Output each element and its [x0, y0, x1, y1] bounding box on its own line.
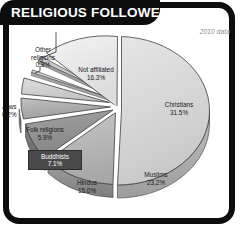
infographic-frame: Other religions 0.8% Jews 0.2% Not affil…	[0, 0, 244, 230]
label-jews-name: Jews	[2, 103, 28, 111]
label-christians: Christians 31.5%	[152, 101, 206, 116]
label-not-affiliated: Not affiliated 16.3%	[66, 66, 126, 81]
label-hindus-name: Hindus	[62, 179, 112, 187]
label-not-affiliated-pct: 16.3%	[66, 74, 126, 82]
label-buddhists-name: Buddhists	[33, 153, 77, 161]
label-buddhists-pct: 7.1%	[33, 160, 77, 168]
page-title: RELIGIOUS FOLLOWERS	[0, 5, 179, 20]
label-jews-pct: 0.2%	[2, 111, 28, 119]
label-muslims: Muslims 23.2%	[130, 171, 182, 186]
label-hindus-pct: 15.0%	[62, 187, 112, 195]
label-folk-religions-name: Folk religions	[16, 126, 74, 134]
label-buddhists: Buddhists 7.1%	[28, 150, 82, 170]
label-folk-religions-pct: 5.9%	[16, 134, 74, 142]
label-folk-religions: Folk religions 5.9%	[16, 126, 74, 141]
label-not-affiliated-name: Not affiliated	[66, 66, 126, 74]
label-other-religions-pct: 0.8%	[20, 61, 66, 69]
label-muslims-pct: 23.2%	[130, 179, 182, 187]
label-jews: Jews 0.2%	[0, 103, 28, 118]
data-year-note: 2010 data	[200, 28, 230, 35]
label-other-religions: Other religions 0.8%	[20, 46, 66, 69]
title-banner: RELIGIOUS FOLLOWERS	[0, 0, 160, 25]
label-muslims-name: Muslims	[130, 171, 182, 179]
label-other-religions-name2: religions	[20, 54, 66, 62]
label-christians-name: Christians	[152, 101, 206, 109]
label-christians-pct: 31.5%	[152, 109, 206, 117]
label-other-religions-name: Other	[20, 46, 66, 54]
label-hindus: Hindus 15.0%	[62, 179, 112, 194]
